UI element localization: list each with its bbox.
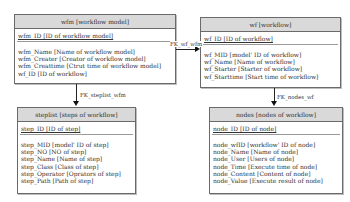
attribute: step_Class [Class of step] xyxy=(21,163,132,170)
entity-wfm-primary-key: wfm_ID [ID of workflow model] xyxy=(15,29,175,40)
attribute: step_Operator [Oprators of step] xyxy=(21,170,132,177)
relationship-label-fk-wf-wfm: FK_wf_wfm xyxy=(170,41,202,47)
attribute: wfm_Name [Name of workflow model] xyxy=(18,48,172,55)
entity-wfm-attributes: wfm_Name [Name of workflow model] wfm_Cr… xyxy=(15,42,175,79)
entity-nodes-attributes: node_wfID [workflow' ID of node] node_Na… xyxy=(210,135,342,186)
entity-nodes-title: nodes [nodes of workflow] xyxy=(210,108,342,122)
attribute: wfm_Creater [Creator of workflow model] xyxy=(18,55,172,62)
entity-nodes-primary-key: node_ID [ID of node] xyxy=(210,122,342,133)
entity-steplist-attributes: step_MID [model' ID of step] step_NO [NO… xyxy=(18,135,135,186)
attribute: step_Path [Path of step] xyxy=(21,177,132,184)
attribute: step_Name [Name of step] xyxy=(21,155,132,162)
arrow-down-icon xyxy=(73,101,79,106)
attribute: wfm_Creattime [Ctrut time of workflow mo… xyxy=(18,62,172,69)
relationship-line-fk-nodes-wf[interactable] xyxy=(274,88,275,102)
attribute: step_NO [NO of step] xyxy=(21,148,132,155)
attribute: wf_Starter [Starter of workflow] xyxy=(204,65,337,72)
entity-steplist[interactable]: steplist [steps of workflow] step_ID [ID… xyxy=(17,107,136,194)
relationship-line-fk-steplist-wfm[interactable] xyxy=(76,84,77,102)
entity-steplist-title: steplist [steps of workflow] xyxy=(18,108,135,122)
entity-wf-title: wf [workflow] xyxy=(201,18,340,32)
attribute: node_User [Users of node] xyxy=(213,155,339,162)
attribute: node_Value [Execute result of node] xyxy=(213,177,339,184)
attribute: node_Name [Name of node] xyxy=(213,148,339,155)
attribute: wf_MID [model' ID of workflow] xyxy=(204,51,337,58)
attribute: wf_Name [Name of workflow] xyxy=(204,58,337,65)
entity-wfm-title: wfm [workflow model] xyxy=(15,15,175,29)
entity-wf-attributes: wf_MID [model' ID of workflow] wf_Name [… xyxy=(201,45,340,82)
relationship-label-fk-steplist-wfm: FK_steplist_wfm xyxy=(80,92,126,98)
attribute: wf_Starttime [Start time of workflow] xyxy=(204,73,337,80)
entity-wf[interactable]: wf [workflow] wf_ID [ID of workflow] wf_… xyxy=(200,17,341,88)
attribute: step_MID [model' ID of step] xyxy=(21,141,132,148)
attribute: node_Content [Content of node] xyxy=(213,170,339,177)
entity-steplist-primary-key: step_ID [ID of step] xyxy=(18,122,135,133)
relationship-line-fk-wf-wfm[interactable] xyxy=(176,49,196,50)
attribute: node_Time [Execute time of node] xyxy=(213,163,339,170)
entity-wf-primary-key: wf_ID [ID of workflow] xyxy=(201,32,340,43)
relationship-label-fk-nodes-wf: FK_nodes_wf xyxy=(277,94,314,100)
attribute: wf_ID [ID of workflow] xyxy=(18,70,172,77)
entity-wfm[interactable]: wfm [workflow model] wfm_ID [ID of workf… xyxy=(14,14,176,84)
entity-nodes[interactable]: nodes [nodes of workflow] node_ID [ID of… xyxy=(209,107,343,194)
attribute: node_wfID [workflow' ID of node] xyxy=(213,141,339,148)
arrow-down-icon xyxy=(271,101,277,106)
